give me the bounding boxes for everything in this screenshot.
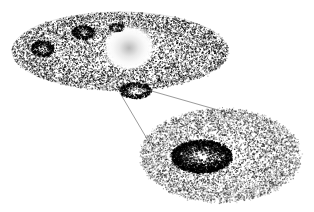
central-bulge	[103, 25, 155, 71]
figure-canvas	[0, 0, 314, 212]
astronomy-figure: Simulated galactic disk with magnified s…	[0, 0, 314, 212]
